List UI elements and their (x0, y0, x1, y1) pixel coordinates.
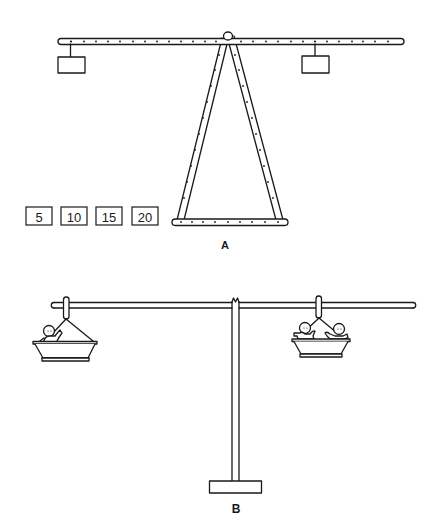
a-frame-left-leg (177, 38, 228, 220)
b-left-figure (40, 326, 62, 342)
weight-set: 5 10 15 20 (26, 207, 158, 225)
b-beam (51, 298, 416, 308)
figure-b-label: B (232, 502, 241, 516)
b-right-basket (292, 296, 350, 357)
balance-diagrams: 5 10 15 20 A B (0, 0, 436, 522)
weight-box-15: 15 (96, 207, 122, 225)
a-right-weight (302, 44, 329, 73)
weight-box-10: 10 (61, 207, 87, 225)
weight-box-20-value: 20 (138, 210, 152, 225)
weight-box-20: 20 (132, 207, 158, 225)
weight-box-10-value: 10 (67, 210, 81, 225)
b-left-basket (33, 297, 97, 361)
a-left-weight (58, 44, 85, 73)
a-frame-base-bar (172, 219, 288, 226)
b-post (232, 302, 239, 481)
b-base (210, 481, 262, 493)
figure-b (33, 296, 416, 493)
figure-a (58, 32, 404, 226)
a-pivot (224, 32, 233, 40)
a-frame-right-leg (227, 36, 283, 220)
figure-a-label: A (221, 239, 229, 251)
weight-box-5: 5 (26, 207, 52, 225)
weight-box-5-value: 5 (35, 210, 42, 225)
weight-box-15-value: 15 (102, 210, 116, 225)
